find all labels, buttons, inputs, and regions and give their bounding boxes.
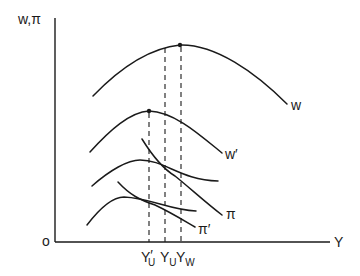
curve-pi-prime bbox=[118, 182, 195, 227]
diagram-canvas: w,π Y o w w′ π π′ Y′U YU YW bbox=[0, 0, 360, 276]
curve-upper-hump bbox=[92, 160, 218, 186]
label-pi: π bbox=[226, 206, 236, 222]
label-pi-prime: π′ bbox=[198, 221, 211, 237]
tick-yu: YU bbox=[160, 249, 177, 268]
w-peak-dot bbox=[178, 43, 182, 47]
curve-lower-hump bbox=[87, 197, 196, 225]
label-w-prime: w′ bbox=[224, 146, 238, 162]
curve-pi bbox=[142, 139, 222, 215]
tick-yw: YW bbox=[176, 249, 195, 268]
x-axis-label: Y bbox=[334, 234, 344, 250]
y-axis-label: w,π bbox=[17, 11, 41, 27]
label-w: w bbox=[290, 97, 302, 113]
origin-label: o bbox=[42, 233, 50, 249]
curve-w-prime bbox=[90, 111, 222, 153]
w-prime-peak-dot bbox=[147, 109, 151, 113]
curve-w bbox=[93, 45, 287, 104]
tick-yu-prime: Y′U bbox=[141, 247, 155, 268]
